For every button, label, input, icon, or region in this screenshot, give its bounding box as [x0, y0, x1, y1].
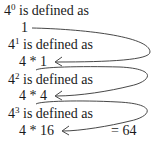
arrow-2-icon: [36, 67, 148, 96]
arrow-1-icon: [32, 28, 150, 62]
arrow-3-icon: [36, 101, 147, 131]
recursion-arrows: [0, 0, 161, 146]
